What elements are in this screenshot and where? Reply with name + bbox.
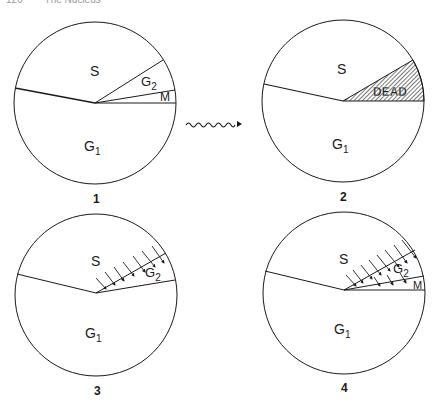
panel-4: S G2 M G1 4 bbox=[263, 212, 425, 395]
panel-3: S G2 G1 3 bbox=[15, 214, 177, 398]
sector-label-g1: G1 bbox=[334, 321, 351, 340]
cell-cycle-figure: S G2 M G1 1 S DEAD G1 2 S bbox=[0, 0, 432, 407]
sector-label-s: S bbox=[339, 251, 348, 267]
sector-label-s: S bbox=[90, 63, 99, 79]
sector-label-m: M bbox=[413, 279, 422, 291]
s-g1-boundary bbox=[264, 84, 343, 101]
s-g1-boundary bbox=[17, 274, 96, 293]
panel-caption-3: 3 bbox=[94, 384, 101, 398]
sector-label-g2: G2 bbox=[145, 265, 161, 283]
sector-label-m: M bbox=[160, 90, 170, 104]
sector-label-g2: G2 bbox=[141, 74, 157, 92]
cell-cycle-circle bbox=[15, 214, 177, 376]
sector-label-s: S bbox=[337, 61, 346, 77]
panel-caption-1: 1 bbox=[93, 192, 100, 206]
sector-label-g1: G1 bbox=[85, 325, 102, 344]
sector-label-s: S bbox=[91, 253, 100, 269]
panel-caption-4: 4 bbox=[341, 381, 348, 395]
s-g1-boundary bbox=[15, 88, 95, 103]
sector-label-dead: DEAD bbox=[373, 85, 407, 99]
panel-2: S DEAD G1 2 bbox=[262, 20, 424, 204]
sector-label-g2: G2 bbox=[393, 261, 409, 279]
s-g1-boundary bbox=[265, 271, 344, 290]
cell-cycle-circle bbox=[263, 212, 425, 374]
sector-label-g1: G1 bbox=[84, 138, 101, 157]
sector-label-g1: G1 bbox=[332, 136, 349, 155]
wavy-arrow-icon bbox=[186, 121, 242, 127]
panel-1: S G2 M G1 1 bbox=[14, 22, 176, 206]
panel-caption-2: 2 bbox=[340, 190, 347, 204]
